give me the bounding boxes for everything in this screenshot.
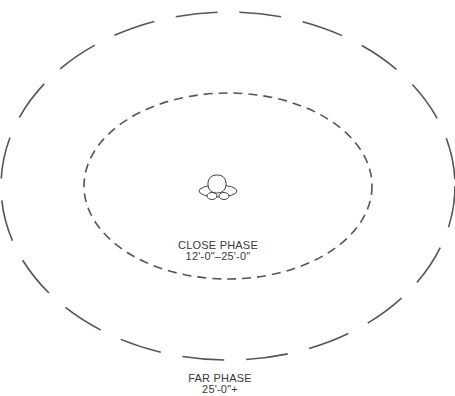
close-phase-range: 12'-0"–25'-0"	[118, 251, 318, 262]
person-top-view-icon	[199, 175, 237, 200]
close-phase-label: CLOSE PHASE 12'-0"–25'-0"	[118, 240, 318, 262]
far-phase-label: FAR PHASE 25'-0"+	[120, 373, 320, 395]
proxemics-diagram	[0, 0, 455, 396]
far-phase-range: 25'-0"+	[120, 384, 320, 395]
